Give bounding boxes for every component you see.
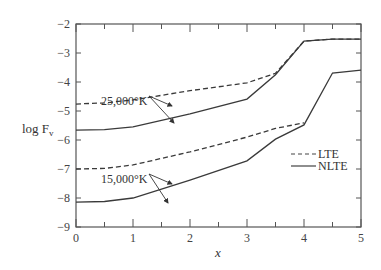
legend: LTE NLTE: [291, 147, 348, 173]
series-lte-15-000-k: [76, 123, 304, 169]
x-axis: 012345: [73, 24, 364, 245]
annotation-label: 25,000°K: [101, 94, 148, 108]
x-tick-label: 0: [73, 231, 79, 245]
series-nlte-25-000-k: [76, 39, 361, 130]
annotation-arrow: [149, 96, 172, 106]
y-tick-label: −5: [57, 104, 70, 118]
line-chart: −2−3−4−5−6−7−8−9 012345 25,000°K15,000°K…: [0, 0, 381, 270]
annotation-label: 15,000°K: [101, 172, 148, 186]
y-tick-label: −6: [57, 133, 70, 147]
y-tick-label: −2: [57, 17, 70, 31]
x-tick-label: 4: [301, 231, 307, 245]
y-tick-label: −7: [57, 162, 70, 176]
y-tick-label: −8: [57, 191, 70, 205]
x-tick-label: 3: [244, 231, 250, 245]
temperature-annotations: 25,000°K15,000°K: [101, 94, 174, 203]
plot-border: [76, 24, 361, 227]
y-tick-label: −4: [57, 75, 70, 89]
x-axis-label: x: [214, 245, 221, 260]
x-tick-label: 1: [130, 231, 136, 245]
y-axis-label: log Fv: [22, 121, 54, 138]
y-tick-label: −3: [57, 46, 70, 60]
plot-frame: [76, 24, 361, 227]
legend-label-nlte: NLTE: [318, 159, 348, 173]
x-tick-label: 2: [187, 231, 193, 245]
annotation-arrow: [149, 96, 174, 123]
y-tick-label: −9: [57, 220, 70, 234]
x-tick-label: 5: [358, 231, 364, 245]
